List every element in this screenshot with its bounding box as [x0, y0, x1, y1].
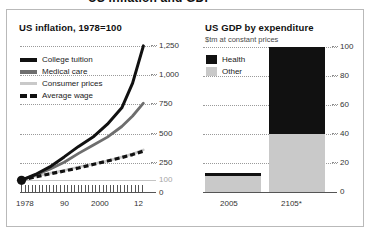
- right-plot-area: [203, 40, 331, 192]
- xtick-label-2005: 2005: [220, 200, 238, 208]
- left-chart-panel: US inflation, 1978=100 College tuition M…: [7, 10, 195, 226]
- right-ytick-label-0: 0: [340, 188, 344, 196]
- right-ytick-label-60: 60: [340, 101, 349, 109]
- right-ytick-label-40: 40: [340, 130, 349, 138]
- ytick-label-500: 500: [159, 130, 172, 138]
- xtick-label-2000: 2000: [91, 200, 109, 208]
- right-ytick-lead-100: [332, 46, 338, 47]
- ytick-label-1000: 1,000: [159, 71, 179, 79]
- ytick-lead-500: [151, 133, 157, 134]
- ytick-label-100: 100: [159, 176, 172, 184]
- right-chart-title: US GDP by expenditure: [205, 22, 314, 33]
- xtick-label-1978: 1978: [16, 200, 34, 208]
- bar-column-2105[interactable]: [269, 40, 325, 192]
- right-ytick-label-20: 20: [340, 159, 349, 167]
- xtick-label-90: 90: [60, 200, 69, 208]
- chart-frame: US inflation, 1978=100 College tuition M…: [6, 9, 364, 227]
- line-college-tuition: [21, 46, 143, 180]
- right-ytick-label-100: 100: [340, 43, 353, 51]
- right-ytick-lead-60: [332, 104, 338, 105]
- infographic-page: US inflation and GDP US inflation, 1978=…: [0, 0, 372, 234]
- bar-segment-2105-health[interactable]: [269, 47, 325, 134]
- bar-segment-2005-health[interactable]: [205, 173, 261, 176]
- left-plot-area: [20, 40, 150, 192]
- right-ytick-label-80: 80: [340, 72, 349, 80]
- ytick-lead-250: [151, 162, 157, 163]
- left-chart-title: US inflation, 1978=100: [19, 22, 122, 33]
- line-medical-care: [21, 103, 143, 180]
- right-x-axis-line: [203, 192, 337, 193]
- right-ytick-lead-20: [332, 162, 338, 163]
- right-chart-panel: US GDP by expenditure $tm at constant pr…: [195, 10, 363, 226]
- ytick-label-250: 250: [159, 159, 172, 167]
- origin-marker-dot: [17, 176, 26, 185]
- ytick-label-750: 750: [159, 100, 172, 108]
- cropped-headline-text: US inflation and GDP: [88, 0, 213, 5]
- ytick-lead-750: [151, 103, 157, 104]
- bar-column-2005[interactable]: [205, 40, 261, 192]
- left-chart-lines: [20, 40, 156, 194]
- xtick-label-2105: 2105*: [281, 200, 302, 208]
- ytick-lead-1250: [151, 45, 157, 46]
- right-ytick-lead-40: [332, 133, 338, 134]
- right-ytick-lead-80: [332, 75, 338, 76]
- cropped-headline-remnant: US inflation and GDP: [0, 0, 372, 9]
- ytick-lead-1000: [151, 74, 157, 75]
- bar-segment-2105-other[interactable]: [269, 134, 325, 192]
- xtick-label-12: 12: [134, 200, 143, 208]
- ytick-label-1250: 1,250: [159, 42, 179, 50]
- bar-segment-2005-other[interactable]: [205, 176, 261, 192]
- ytick-label-0: 0: [159, 189, 163, 197]
